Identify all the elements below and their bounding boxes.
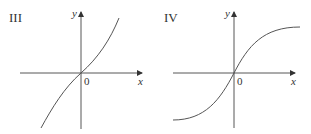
y-axis-label: y	[224, 7, 230, 19]
panel-iii: III y x 0	[9, 7, 143, 129]
graph-figure: III y x 0 IV y x 0	[0, 0, 311, 134]
x-axis-label: x	[290, 75, 296, 87]
panel-label-iv: IV	[164, 10, 178, 25]
origin-label: 0	[84, 75, 90, 87]
y-axis-label: y	[71, 7, 77, 19]
origin-label: 0	[237, 75, 243, 87]
panel-label-iii: III	[9, 10, 22, 25]
panel-iv: IV y x 0	[164, 7, 300, 128]
x-axis-label: x	[137, 75, 143, 87]
curve-iv	[173, 27, 300, 120]
